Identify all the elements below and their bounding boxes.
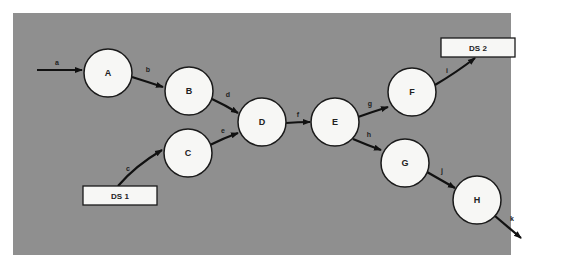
process-node-e-label: E: [332, 117, 338, 127]
edge-g-label: g: [368, 100, 372, 108]
edge-f-arrow: [286, 122, 310, 123]
data-store-ds1[interactable]: DS 1: [83, 186, 157, 205]
edge-e-label: e: [221, 127, 225, 134]
process-node-c[interactable]: C: [164, 129, 212, 177]
edge-a-label: a: [55, 59, 59, 66]
process-node-d-label: D: [259, 117, 266, 127]
edge-c-label: c: [126, 165, 130, 172]
edge-d-label: d: [226, 91, 230, 98]
edge-i-label: i: [446, 67, 448, 74]
process-node-h[interactable]: H: [453, 176, 501, 224]
process-node-e[interactable]: E: [311, 98, 359, 146]
process-node-f[interactable]: F: [388, 68, 436, 116]
data-store-ds1-label: DS 1: [111, 192, 129, 201]
process-node-d[interactable]: D: [238, 98, 286, 146]
data-store-ds2[interactable]: DS 2: [441, 38, 515, 57]
process-node-b-label: B: [186, 86, 193, 96]
process-node-g-label: G: [401, 158, 408, 168]
process-node-c-label: C: [185, 148, 192, 158]
process-node-f-label: F: [409, 87, 415, 97]
process-node-g[interactable]: G: [381, 139, 429, 187]
edge-k-label: k: [510, 215, 514, 222]
edge-h-label: h: [367, 131, 371, 138]
edge-j-label: j: [440, 167, 443, 175]
process-node-h-label: H: [474, 195, 481, 205]
edge-b-label: b: [146, 66, 150, 73]
process-node-a-label: A: [105, 68, 112, 78]
data-flow-diagram: a b c d e f g h i j k DS 1 DS 2 A: [0, 0, 564, 267]
process-node-b[interactable]: B: [165, 67, 213, 115]
process-node-a[interactable]: A: [84, 49, 132, 97]
data-store-ds2-label: DS 2: [469, 44, 487, 53]
